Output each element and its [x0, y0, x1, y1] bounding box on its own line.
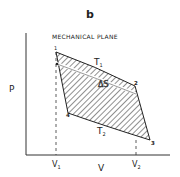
pv-diagram: b MECHANICAL PLANE P V V1 V2 1 2 3 4 T1 … [0, 0, 180, 177]
point-3-label: 3 [151, 140, 155, 146]
cycle-area [56, 52, 150, 140]
point-1-label: 1 [54, 45, 57, 51]
diagram-title: MECHANICAL PLANE [52, 33, 118, 40]
x-tick-v2: V2 [132, 160, 141, 170]
t2-label: T2 [96, 126, 106, 137]
delta-s-label: ΔS [98, 80, 109, 89]
t1-label: T1 [93, 57, 103, 68]
y-axis-label: P [9, 84, 15, 94]
point-2-label: 2 [134, 80, 138, 86]
panel-label: b [86, 8, 94, 21]
x-tick-v1: V1 [52, 160, 61, 170]
x-axis-label: V [98, 163, 105, 173]
point-4-label: 4 [66, 112, 70, 118]
